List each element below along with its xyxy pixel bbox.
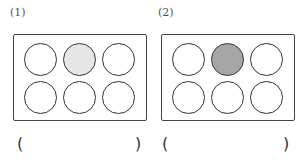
answer-2-open-paren: ( <box>162 134 168 153</box>
problem-1-label: (1) <box>10 6 26 19</box>
circle-r2c2 <box>211 81 244 114</box>
problem-2-frame <box>161 34 295 121</box>
answer-1-field[interactable] <box>28 134 132 154</box>
circle-r2c2 <box>63 81 96 114</box>
answer-1-open-paren: ( <box>17 134 23 153</box>
circle-r1c2 <box>211 43 244 76</box>
circle-r1c1 <box>24 43 57 76</box>
answer-2-close-paren: ) <box>283 134 289 153</box>
circle-r1c1 <box>172 43 205 76</box>
circle-r2c3 <box>102 81 135 114</box>
problem-1-frame <box>13 34 147 121</box>
circle-r1c3 <box>250 43 283 76</box>
circle-r1c3 <box>102 43 135 76</box>
circle-r2c3 <box>250 81 283 114</box>
circle-r2c1 <box>24 81 57 114</box>
answer-1-close-paren: ) <box>135 134 141 153</box>
circle-r2c1 <box>172 81 205 114</box>
circle-r1c2 <box>63 43 96 76</box>
answer-2-field[interactable] <box>174 134 278 154</box>
problem-2-label: (2) <box>158 6 174 19</box>
